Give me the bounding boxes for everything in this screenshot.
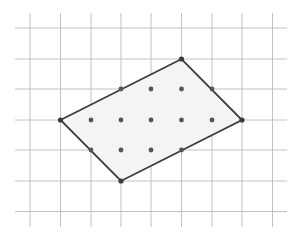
vertex-point bbox=[118, 178, 123, 183]
interior-point bbox=[179, 118, 184, 123]
interior-point bbox=[119, 148, 124, 153]
boundary-point bbox=[119, 87, 124, 92]
lattice-grid-diagram bbox=[0, 0, 298, 238]
interior-point bbox=[179, 87, 184, 92]
interior-point bbox=[89, 118, 94, 123]
diagram-canvas bbox=[0, 0, 298, 238]
vertex-point bbox=[58, 117, 63, 122]
vertex-point bbox=[179, 56, 184, 61]
boundary-point bbox=[89, 148, 94, 153]
interior-point bbox=[119, 118, 124, 123]
interior-point bbox=[210, 118, 215, 123]
vertex-point bbox=[239, 117, 244, 122]
boundary-point bbox=[179, 148, 184, 153]
interior-point bbox=[149, 118, 154, 123]
interior-point bbox=[149, 87, 154, 92]
boundary-point bbox=[210, 87, 215, 92]
interior-point bbox=[149, 148, 154, 153]
